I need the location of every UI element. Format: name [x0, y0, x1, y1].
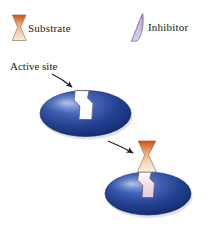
enzyme-substrate-complex: [105, 172, 193, 218]
enzyme-diagram: Substrate Inhibitor Active site: [0, 0, 208, 227]
reaction-arrow-icon: [108, 141, 133, 153]
wedge-inhibitor-icon: [131, 14, 143, 42]
substrate-molecule: [137, 141, 156, 172]
diagram-artwork: [0, 0, 208, 227]
pointer-arrow-icon: [52, 74, 72, 87]
enzyme-free: [40, 91, 133, 140]
hourglass-substrate-icon: [12, 15, 26, 41]
